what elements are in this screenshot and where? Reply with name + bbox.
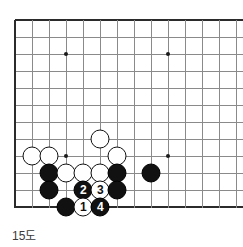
go-board[interactable]: 2314 [0,0,243,222]
board-grid-line-vertical [185,20,186,208]
star-point [166,154,170,158]
star-point [64,52,68,56]
move-number: 2 [80,184,86,196]
move-stone-4: 4 [91,198,110,217]
move-number: 4 [97,201,103,213]
board-grid-line-vertical [134,20,135,208]
diagram-caption: 15도 [12,226,36,243]
stone-white [91,130,110,149]
board-grid-line-vertical [168,20,169,208]
go-diagram: 2314 15도 [0,0,243,247]
board-grid-line-vertical [236,20,237,208]
board-grid-line-vertical [219,20,220,208]
stone-black [142,164,161,183]
board-grid-line-vertical [32,20,33,208]
move-number: 3 [97,184,103,196]
board-edge-line-vertical [14,20,16,208]
star-point [166,52,170,56]
stone-black [40,181,59,200]
board-grid-line-vertical [202,20,203,208]
stone-black [108,181,127,200]
move-number: 1 [80,201,86,213]
star-point [64,154,68,158]
